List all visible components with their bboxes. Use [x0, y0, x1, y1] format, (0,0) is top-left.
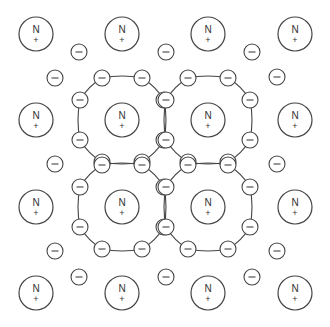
plus-charge-icon: + — [119, 121, 124, 131]
free-electron — [244, 269, 260, 285]
ring-electron — [72, 179, 88, 195]
positive-ion: N+ — [278, 276, 312, 310]
plus-charge-icon: + — [205, 294, 210, 304]
ion-symbol: N — [291, 110, 298, 121]
ion-symbol: N — [32, 24, 39, 35]
free-electron — [71, 44, 87, 60]
ring-electron — [134, 157, 150, 173]
positive-ion: N+ — [19, 17, 53, 51]
free-electron — [71, 269, 87, 285]
ion-symbol: N — [118, 283, 125, 294]
free-electron — [269, 156, 285, 172]
plus-charge-icon: + — [119, 294, 124, 304]
positive-ion: N+ — [105, 17, 139, 51]
ring-electron — [220, 70, 236, 86]
positive-ion: N+ — [191, 17, 225, 51]
plus-charge-icon: + — [205, 208, 210, 218]
ring-electron — [242, 219, 258, 235]
plus-charge-icon: + — [292, 121, 297, 131]
plus-charge-icon: + — [33, 121, 38, 131]
plus-charge-icon: + — [33, 294, 38, 304]
ring-electron — [242, 92, 258, 108]
ion-symbol: N — [118, 24, 125, 35]
ring-electron — [134, 241, 150, 257]
plus-charge-icon: + — [33, 208, 38, 218]
free-electron — [244, 44, 260, 60]
positive-ion: N+ — [19, 103, 53, 137]
free-electron — [47, 70, 63, 86]
ring-electron — [180, 157, 196, 173]
ring-electron — [158, 92, 174, 108]
ring-electron — [220, 157, 236, 173]
positive-ion: N+ — [19, 190, 53, 224]
metallic-bonding-diagram: N+N+N+N+N+N+N+N+N+N+N+N+N+N+N+N+ — [0, 0, 330, 327]
ion-symbol: N — [118, 110, 125, 121]
free-electron — [47, 243, 63, 259]
positive-ion: N+ — [105, 103, 139, 137]
ion-symbol: N — [32, 197, 39, 208]
ion-symbol: N — [291, 24, 298, 35]
ion-symbol: N — [204, 110, 211, 121]
ring-electron — [72, 219, 88, 235]
ion-symbol: N — [32, 283, 39, 294]
ion-symbol: N — [291, 283, 298, 294]
ring-electron — [180, 241, 196, 257]
ring-electron — [242, 179, 258, 195]
ion-symbol: N — [32, 110, 39, 121]
positive-ion: N+ — [191, 103, 225, 137]
ring-electron — [72, 92, 88, 108]
ion-symbol: N — [204, 24, 211, 35]
positive-ion: N+ — [19, 276, 53, 310]
plus-charge-icon: + — [33, 35, 38, 45]
positive-ion: N+ — [278, 190, 312, 224]
free-electron — [158, 44, 174, 60]
plus-charge-icon: + — [119, 208, 124, 218]
ring-electron — [180, 70, 196, 86]
free-electron — [269, 243, 285, 259]
ring-electron — [134, 70, 150, 86]
ring-electron — [242, 132, 258, 148]
plus-charge-icon: + — [205, 35, 210, 45]
ion-symbol: N — [204, 283, 211, 294]
ring-electron — [220, 241, 236, 257]
ring-electron — [94, 70, 110, 86]
ion-symbol: N — [204, 197, 211, 208]
ring-electron — [158, 219, 174, 235]
plus-charge-icon: + — [292, 35, 297, 45]
free-electron — [269, 69, 285, 85]
positive-ion: N+ — [278, 17, 312, 51]
ring-electrons — [72, 70, 258, 257]
ring-electron — [94, 241, 110, 257]
plus-charge-icon: + — [205, 121, 210, 131]
free-electron — [158, 269, 174, 285]
positive-ion: N+ — [105, 276, 139, 310]
positive-ion: N+ — [191, 190, 225, 224]
ion-symbol: N — [291, 197, 298, 208]
plus-charge-icon: + — [292, 208, 297, 218]
ring-electron — [158, 179, 174, 195]
positive-ion: N+ — [278, 103, 312, 137]
ring-electron — [94, 157, 110, 173]
free-electron — [47, 156, 63, 172]
plus-charge-icon: + — [292, 294, 297, 304]
ring-electron — [72, 132, 88, 148]
ring-electron — [158, 132, 174, 148]
lattice-svg: N+N+N+N+N+N+N+N+N+N+N+N+N+N+N+N+ — [0, 0, 330, 327]
plus-charge-icon: + — [119, 35, 124, 45]
positive-ion: N+ — [105, 190, 139, 224]
ion-symbol: N — [118, 197, 125, 208]
free-electrons — [47, 44, 285, 285]
positive-ion: N+ — [191, 276, 225, 310]
